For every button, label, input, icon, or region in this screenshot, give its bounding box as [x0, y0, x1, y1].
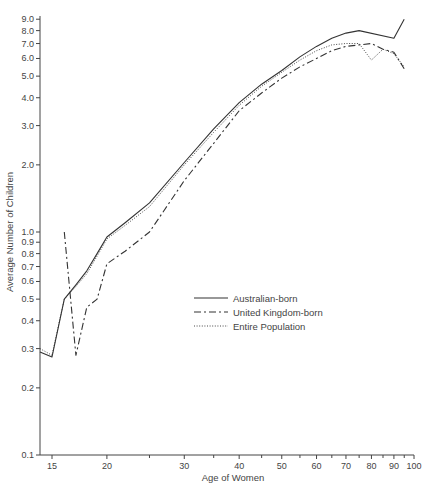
x-tick-label: 90: [389, 461, 399, 471]
x-tick-label: 20: [102, 461, 112, 471]
y-tick-label: 4.0: [21, 93, 34, 103]
y-tick-label: 0.7: [21, 262, 34, 272]
y-tick-label: 7.0: [21, 39, 34, 49]
y-tick-label: 0.3: [21, 344, 34, 354]
legend-label: United Kingdom-born: [233, 307, 323, 318]
x-tick-label: 15: [47, 461, 57, 471]
y-tick-label: 9.0: [21, 14, 34, 24]
x-tick-label: 70: [341, 461, 351, 471]
x-tick-label: 100: [407, 461, 422, 471]
series-australian-born: [40, 19, 404, 357]
x-tick-label: 50: [277, 461, 287, 471]
x-tick-label: 80: [366, 461, 376, 471]
y-tick-label: 0.1: [21, 450, 34, 460]
y-tick-label: 0.2: [21, 383, 34, 393]
series-layer: [40, 19, 404, 357]
x-tick-label: 40: [234, 461, 244, 471]
x-tick-label: 30: [179, 461, 189, 471]
y-tick-label: 3.0: [21, 121, 34, 131]
y-axis-title: Average Number of Children: [4, 172, 15, 292]
y-tick-label: 8.0: [21, 26, 34, 36]
y-tick-label: 5.0: [21, 71, 34, 81]
y-tick-label: 2.0: [21, 160, 34, 170]
y-tick-label: 0.4: [21, 316, 34, 326]
legend-label: Australian-born: [233, 293, 297, 304]
legend: Australian-bornUnited Kingdom-bornEntire…: [194, 293, 323, 332]
y-tick-label: 1.0: [21, 227, 34, 237]
legend-label: Entire Population: [233, 321, 305, 332]
line-chart: 0.10.20.30.40.50.60.70.80.91.02.03.04.05…: [0, 0, 423, 486]
y-tick-label: 0.6: [21, 276, 34, 286]
y-tick-label: 0.5: [21, 294, 34, 304]
series-entire-population: [40, 44, 404, 356]
y-tick-label: 0.9: [21, 237, 34, 247]
y-axis: 0.10.20.30.40.50.60.70.80.91.02.03.04.05…: [21, 14, 40, 460]
y-tick-label: 6.0: [21, 53, 34, 63]
x-axis-title: Age of Women: [202, 472, 265, 483]
x-tick-label: 60: [312, 461, 322, 471]
y-tick-label: 0.8: [21, 249, 34, 259]
x-axis: 152030405060708090100: [40, 455, 422, 471]
